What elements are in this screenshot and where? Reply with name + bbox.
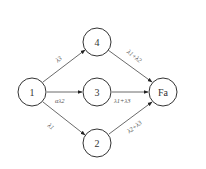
edge-1-to-2: λ1 [43, 102, 85, 135]
edge-1-to-3: αλ2 [47, 92, 82, 104]
node-label-2: 2 [95, 138, 100, 149]
edge-2-to-Fa: λ2+λ3 [109, 102, 152, 135]
node-3: 3 [83, 78, 111, 106]
edge-3-to-Fa: λ1+λ3 [112, 92, 148, 104]
node-Fa: Fa [149, 78, 177, 106]
edge-label-1-4: λ3 [53, 54, 63, 64]
node-1: 1 [18, 78, 46, 106]
edge-label-1-2: λ1 [46, 121, 56, 131]
edge-label-4-Fa: λ1+λ2 [125, 47, 144, 64]
node-label-Fa: Fa [158, 87, 169, 98]
edge-label-1-3: αλ2 [55, 97, 65, 104]
node-4: 4 [83, 28, 111, 56]
node-label-4: 4 [95, 37, 100, 48]
edge-4-to-Fa: λ1+λ2 [108, 47, 152, 82]
edge-label-3-Fa: λ1+λ3 [113, 97, 131, 104]
edge-1-to-4: λ3 [43, 50, 85, 82]
node-label-3: 3 [95, 87, 100, 98]
edge-label-2-Fa: λ2+λ3 [125, 118, 144, 135]
node-2: 2 [83, 129, 111, 157]
state-diagram: λ3 αλ2 λ1 λ1+λ2 λ1+λ3 λ2+λ3 1 4 3 2 Fa [0, 0, 206, 169]
node-label-1: 1 [30, 87, 35, 98]
